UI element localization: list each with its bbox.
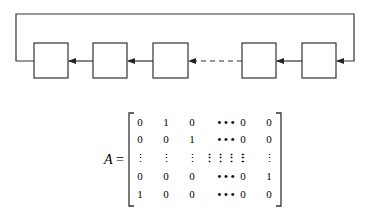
matrix-cell-r4-c5: 0: [240, 170, 246, 182]
register-stage-1: [34, 43, 68, 78]
matrix-label: A: [103, 152, 113, 167]
matrix-cell-r2-c6: 0: [266, 133, 272, 145]
register-stage-2: [93, 43, 127, 78]
matrix-cell-r4-c4: • • •: [217, 170, 234, 182]
matrix-cell-r5-c4: • • •: [217, 188, 234, 200]
matrix-cells: 010• • •00001• • •00⋮⋮⋮⋮⋮⋮⋮⋮⋮000• • •011…: [135, 116, 275, 200]
register-stage-n-1: [242, 43, 276, 78]
matrix-cell-r2-c3: 1: [189, 133, 195, 145]
matrix-cell-r1-c6: 0: [266, 116, 272, 128]
register-stage-3: [153, 43, 188, 78]
matrix-cell-r3-c2: ⋮: [161, 152, 172, 164]
register-stage-n: [302, 43, 336, 78]
right-bracket: [276, 113, 281, 206]
matrix-cell-r5-c2: 0: [163, 188, 169, 200]
matrix-cell-r1-c3: 0: [189, 116, 195, 128]
matrix-cell-r1-c4: • • •: [217, 116, 234, 128]
matrix-cell-r4-c3: 0: [189, 170, 195, 182]
matrix-cell-r4-c2: 0: [163, 170, 169, 182]
matrix-cell-r5-c1: 1: [137, 188, 143, 200]
feedback-line: [16, 14, 354, 61]
matrix-cell-r2-c4: • • •: [217, 133, 234, 145]
matrix-cell-r3-c1: ⋮: [135, 152, 146, 164]
matrix-cell-r4-c1: 0: [137, 170, 143, 182]
matrix-cell-r2-c2: 0: [163, 133, 169, 145]
matrix-cell-r5-c6: 0: [266, 188, 272, 200]
matrix-cell-r2-c1: 0: [137, 133, 143, 145]
matrix-cell-r1-c2: 1: [163, 116, 169, 128]
matrix-cell-r3-c6: ⋮: [264, 152, 275, 164]
matrix-cell-r3-c5: ⋮: [238, 152, 249, 164]
matrix-cell-r1-c1: 0: [137, 116, 143, 128]
matrix-cell-r1-c5: 0: [240, 116, 246, 128]
matrix-cell-r2-c5: 0: [240, 133, 246, 145]
equals-sign: =: [116, 152, 124, 167]
matrix-cell-r4-c6: 1: [266, 170, 272, 182]
matrix-cell-r3-c3: ⋮: [187, 152, 198, 164]
shift-register-diagram: A = 010• • •00001• • •00⋮⋮⋮⋮⋮⋮⋮⋮⋮000• • …: [0, 0, 371, 216]
matrix-cell-r5-c3: 0: [189, 188, 195, 200]
matrix-cell-r5-c5: 0: [240, 188, 246, 200]
left-bracket: [129, 113, 134, 206]
